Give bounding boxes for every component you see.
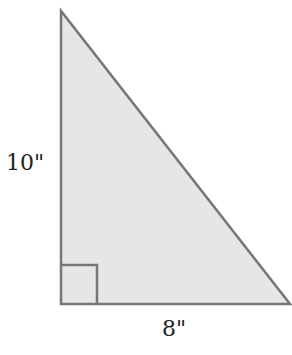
- right-triangle: [61, 11, 290, 304]
- triangle-diagram: 10" 8": [0, 0, 292, 355]
- height-label: 10": [6, 150, 44, 175]
- base-label: 8": [162, 316, 186, 341]
